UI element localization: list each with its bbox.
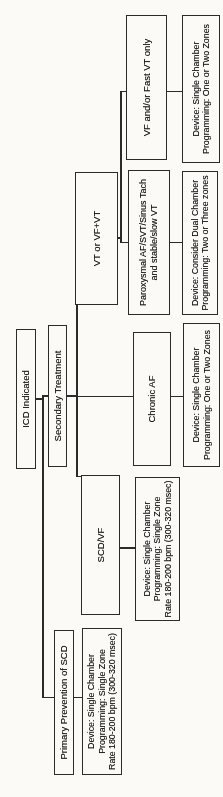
device-scdvf-line-3: Rate 180-200 bpm (300-320 msec) <box>163 481 174 618</box>
connector-root-bus <box>42 396 44 698</box>
device-paroxysmal-line-1: Device: Consider Dual Chamber <box>190 180 201 306</box>
connector-bus-to-chronic-af <box>76 396 133 398</box>
node-chronic-af: Chronic AF <box>133 332 171 466</box>
node-scd-vf-label: SCD/VF <box>96 528 106 563</box>
device-primary-line-2: Programming: Single Zone <box>97 649 108 754</box>
device-box-vf-fast-vt-only: Device: Single Chamber Programming: One … <box>182 15 220 163</box>
device-paroxysmal-line-2: Programming: Two or Three zones <box>200 175 211 310</box>
device-box-chronic-af: Device: Single Chamber Programming: One … <box>183 323 220 467</box>
device-vf-only-line-2: Programming: One or Two Zones <box>201 24 212 154</box>
scanned-figure-page: ICD Indicated Secondary Treatment Primar… <box>0 0 223 797</box>
connector-root-to-primary <box>42 697 54 699</box>
connector-paroxysmal-to-device <box>170 242 182 244</box>
device-scdvf-line-2: Programming: Single Zone <box>152 497 163 602</box>
node-vf-fast-vt-only: VF and/or Fast VT only <box>126 15 167 160</box>
node-paroxysmal-line-1: Paroxysmal AF/SVT/Sinus Tach <box>138 179 149 306</box>
connector-primary-to-device <box>74 697 82 699</box>
device-primary-line-3: Rate 180-200 bpm (300-320 msec) <box>107 633 118 770</box>
device-vf-only-line-1: Device: Single Chamber <box>191 42 202 137</box>
device-scdvf-line-1: Device: Single Chamber <box>142 502 153 597</box>
icd-decision-tree: ICD Indicated Secondary Treatment Primar… <box>0 0 223 797</box>
device-chronic-line-2: Programming: One or Two Zones <box>202 330 213 460</box>
connector-bus-to-paroxysmal <box>120 242 128 244</box>
node-paroxysmal-line-2: and stable/slow VT <box>149 204 160 280</box>
node-secondary-treatment-label: Secondary Treatment <box>53 351 63 442</box>
node-vt-or-vf-vt: VT or VF+VT <box>75 172 118 305</box>
node-chronic-af-label: Chronic AF <box>147 376 157 423</box>
connector-scdvf-to-device <box>120 548 135 550</box>
node-primary-prevention-label: Primary Prevention of SCD <box>59 645 69 759</box>
node-scd-vf: SCD/VF <box>81 475 120 615</box>
device-primary-line-1: Device: Single Chamber <box>86 654 97 749</box>
connector-chronic-to-device <box>171 396 183 398</box>
node-secondary-treatment: Secondary Treatment <box>48 325 67 467</box>
node-vt-or-vf-vt-label: VT or VF+VT <box>92 211 102 267</box>
node-vf-fast-vt-only-label: VF and/or Fast VT only <box>142 39 152 137</box>
node-paroxysmal-af-svt: Paroxysmal AF/SVT/Sinus Tach and stable/… <box>128 170 170 315</box>
node-primary-prevention: Primary Prevention of SCD <box>54 630 74 775</box>
node-icd-indicated: ICD Indicated <box>16 329 36 469</box>
node-icd-indicated-label: ICD Indicated <box>21 370 31 428</box>
connector-vf-only-to-device <box>167 91 182 93</box>
device-chronic-line-1: Device: Single Chamber <box>191 348 202 443</box>
device-box-primary-prevention: Device: Single Chamber Programming: Sing… <box>82 628 122 775</box>
device-box-paroxysmal: Device: Consider Dual Chamber Programmin… <box>182 171 218 315</box>
device-box-scd-vf: Device: Single Chamber Programming: Sing… <box>135 477 180 621</box>
connector-vt-bus <box>120 92 122 243</box>
